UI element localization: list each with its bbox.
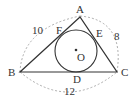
side-length-ab: 10 [32, 24, 44, 36]
vertex-label-a: A [76, 3, 84, 15]
vertex-label-c: C [121, 66, 128, 78]
vertex-label-b: B [8, 66, 15, 78]
tangent-label-f: F [56, 24, 62, 36]
side-length-bc: 12 [64, 85, 75, 97]
triangle-incircle-diagram: A B C D E F O 10 8 12 [0, 0, 139, 107]
center-label-o: O [77, 51, 85, 63]
side-length-ca: 8 [114, 30, 120, 42]
dashed-arc-ca [80, 16, 118, 72]
tangent-label-e: E [96, 27, 103, 39]
tangent-label-d: D [73, 73, 81, 85]
